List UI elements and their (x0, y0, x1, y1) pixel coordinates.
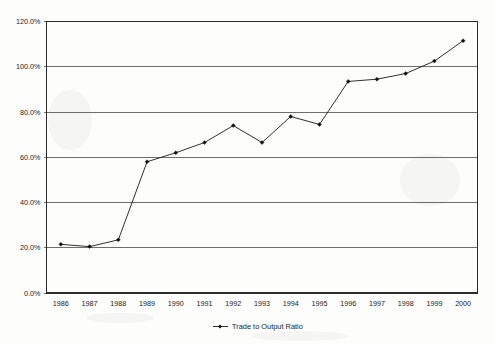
xtick-label-1996: 1996 (340, 299, 356, 308)
trade-to-output-ratio-line-chart: 0.0%20.0%40.0%60.0%80.0%100.0%120.0% 198… (0, 0, 495, 344)
xtick-label-1989: 1989 (139, 299, 155, 308)
ytick-label: 0.0% (24, 289, 41, 298)
xtick-label-1988: 1988 (110, 299, 126, 308)
xtick-label-1990: 1990 (168, 299, 184, 308)
ytick-label: 120.0% (16, 17, 41, 26)
xtick-label-2000: 2000 (455, 299, 471, 308)
ytick-label: 80.0% (20, 108, 41, 117)
xtick-label-1991: 1991 (197, 299, 213, 308)
x-axis: 1986198719881989199019911992199319941995… (53, 299, 471, 308)
xtick-label-1999: 1999 (426, 299, 442, 308)
ytick-label: 100.0% (16, 62, 41, 71)
ytick-label: 40.0% (20, 198, 41, 207)
chart-container: 0.0%20.0%40.0%60.0%80.0%100.0%120.0% 198… (0, 0, 495, 344)
xtick-label-1994: 1994 (283, 299, 299, 308)
ytick-label: 20.0% (20, 243, 41, 252)
legend-label-trade-to-output-ratio: Trade to Output Ratio (232, 322, 303, 331)
xtick-label-1986: 1986 (53, 299, 69, 308)
xtick-label-1992: 1992 (225, 299, 241, 308)
xtick-label-1997: 1997 (369, 299, 385, 308)
xtick-label-1993: 1993 (254, 299, 270, 308)
xtick-label-1987: 1987 (82, 299, 98, 308)
xtick-label-1995: 1995 (311, 299, 327, 308)
xtick-label-1998: 1998 (398, 299, 414, 308)
ytick-label: 60.0% (20, 153, 41, 162)
